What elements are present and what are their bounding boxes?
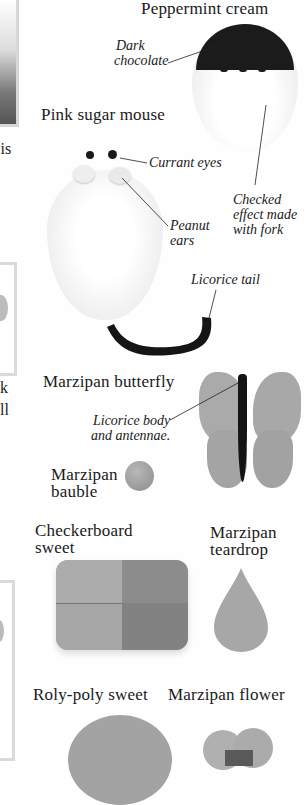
licorice-tail: [107, 317, 211, 356]
